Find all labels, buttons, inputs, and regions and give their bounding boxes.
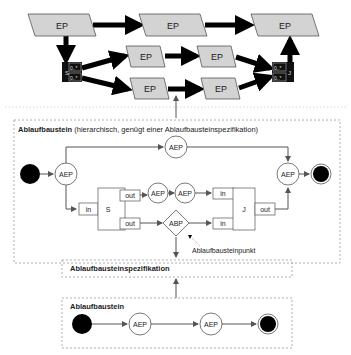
spec-block: Ablaufbausteinspezifikation bbox=[62, 260, 292, 277]
svg-text:EP: EP bbox=[167, 21, 179, 31]
svg-text:Ablaufbaustein: Ablaufbaustein bbox=[70, 302, 125, 311]
ep-node: EP bbox=[197, 46, 236, 67]
svg-text:Ablaufbaustein (hierarchisch,: Ablaufbaustein (hierarchisch, genügt ein… bbox=[18, 125, 259, 134]
svg-text:out: out bbox=[125, 220, 135, 227]
end-node bbox=[311, 164, 331, 184]
svg-text:AEP: AEP bbox=[133, 321, 147, 328]
svg-text:EP: EP bbox=[144, 84, 156, 94]
ep-node: EP bbox=[251, 14, 319, 36]
svg-text:0..*: 0..* bbox=[274, 75, 282, 81]
svg-text:in: in bbox=[86, 206, 92, 213]
split-block: S 0..* 0..* bbox=[62, 62, 82, 82]
ep-node: EP bbox=[130, 78, 169, 99]
start-node bbox=[20, 164, 40, 184]
svg-text:AEP: AEP bbox=[59, 171, 73, 178]
ablaufbausteinpunkt-annotation: Ablaufbausteinpunkt bbox=[188, 235, 255, 255]
join-block: 0..* 0..* J bbox=[272, 62, 294, 82]
svg-text:out: out bbox=[125, 192, 135, 199]
svg-text:Ablaufbausteinpunkt: Ablaufbausteinpunkt bbox=[192, 247, 255, 255]
ep-node: EP bbox=[28, 14, 96, 36]
svg-text:Ablaufbausteinspezifikation: Ablaufbausteinspezifikation bbox=[70, 264, 170, 273]
svg-text:AEP: AEP bbox=[178, 190, 192, 197]
svg-text:J: J bbox=[288, 70, 291, 76]
end-node bbox=[258, 314, 278, 334]
svg-text:EP: EP bbox=[56, 21, 68, 31]
hierarchical-block: Ablaufbaustein (hierarchisch, genügt ein… bbox=[14, 120, 340, 263]
diagram-canvas: EP EP EP EP EP EP EP bbox=[0, 0, 351, 355]
simple-block: Ablaufbaustein AEP AEP bbox=[62, 298, 292, 348]
svg-text:AEP: AEP bbox=[204, 321, 218, 328]
ep-network: EP EP EP EP EP EP EP bbox=[28, 14, 319, 99]
svg-text:0..*: 0..* bbox=[70, 75, 78, 81]
svg-text:in: in bbox=[220, 220, 226, 227]
ep-node: EP bbox=[126, 46, 165, 67]
svg-text:EP: EP bbox=[211, 52, 223, 62]
svg-text:EP: EP bbox=[279, 21, 291, 31]
svg-text:S: S bbox=[106, 206, 111, 213]
svg-text:J: J bbox=[242, 206, 246, 213]
svg-text:in: in bbox=[220, 190, 226, 197]
svg-text:AEP: AEP bbox=[151, 190, 165, 197]
svg-text:0..*: 0..* bbox=[70, 65, 78, 71]
svg-text:EP: EP bbox=[140, 52, 152, 62]
svg-text:EP: EP bbox=[215, 84, 227, 94]
svg-text:0..*: 0..* bbox=[274, 65, 282, 71]
ep-node: EP bbox=[201, 78, 240, 99]
svg-text:ABP: ABP bbox=[169, 220, 183, 227]
svg-text:AEP: AEP bbox=[169, 144, 183, 151]
svg-text:S: S bbox=[65, 70, 69, 76]
ep-node: EP bbox=[139, 14, 207, 36]
start-node bbox=[72, 314, 92, 334]
svg-text:AEP: AEP bbox=[281, 171, 295, 178]
svg-text:out: out bbox=[260, 206, 270, 213]
